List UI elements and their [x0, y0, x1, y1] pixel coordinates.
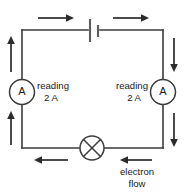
- electron-flow-label-line1: electron: [120, 166, 154, 177]
- arrow-left-lower-head: [7, 111, 15, 119]
- ammeter-left-reading-label: reading: [37, 80, 69, 91]
- ammeter-left-reading: reading 2 A: [37, 80, 69, 103]
- arrow-left-upper-head: [7, 36, 15, 44]
- ammeter-left-symbol: A: [18, 85, 26, 97]
- ammeter-left-reading-value: 2 A: [44, 92, 58, 103]
- arrow-bottom-left: [34, 156, 68, 164]
- lamp-symbol: [80, 136, 104, 160]
- ammeter-right: A: [151, 80, 176, 105]
- electron-flow-label-line2: flow: [128, 178, 145, 189]
- arrow-top-left: [38, 14, 74, 22]
- arrow-bottom-left-head: [34, 156, 42, 164]
- arrow-bottom-right-head: [120, 156, 128, 164]
- circuit-diagram-canvas: A A: [0, 0, 185, 195]
- arrow-right-upper-head: [170, 64, 178, 72]
- ammeter-left: A: [10, 80, 35, 105]
- battery-symbol: [90, 19, 98, 42]
- arrow-bottom-right: [120, 156, 152, 164]
- arrow-right-lower-head: [170, 139, 178, 147]
- electron-flow-annotation: electron flow: [120, 166, 154, 189]
- arrow-top-right: [113, 14, 149, 22]
- ammeter-right-reading: reading 2 A: [116, 80, 148, 103]
- arrow-right-upper: [170, 38, 178, 72]
- circuit-diagram: A A: [0, 0, 185, 195]
- arrow-left-lower: [7, 111, 15, 145]
- ammeter-right-symbol: A: [159, 85, 167, 97]
- arrow-top-left-head: [66, 14, 74, 22]
- arrow-right-lower: [170, 113, 178, 147]
- arrow-top-right-head: [141, 14, 149, 22]
- ammeter-right-reading-value: 2 A: [127, 92, 141, 103]
- ammeter-right-reading-label: reading: [116, 80, 148, 91]
- arrow-left-upper: [7, 36, 15, 72]
